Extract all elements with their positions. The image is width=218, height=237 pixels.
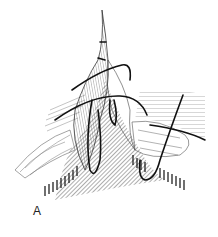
surgical-illustration	[0, 0, 218, 237]
panel-label: A	[33, 204, 41, 218]
